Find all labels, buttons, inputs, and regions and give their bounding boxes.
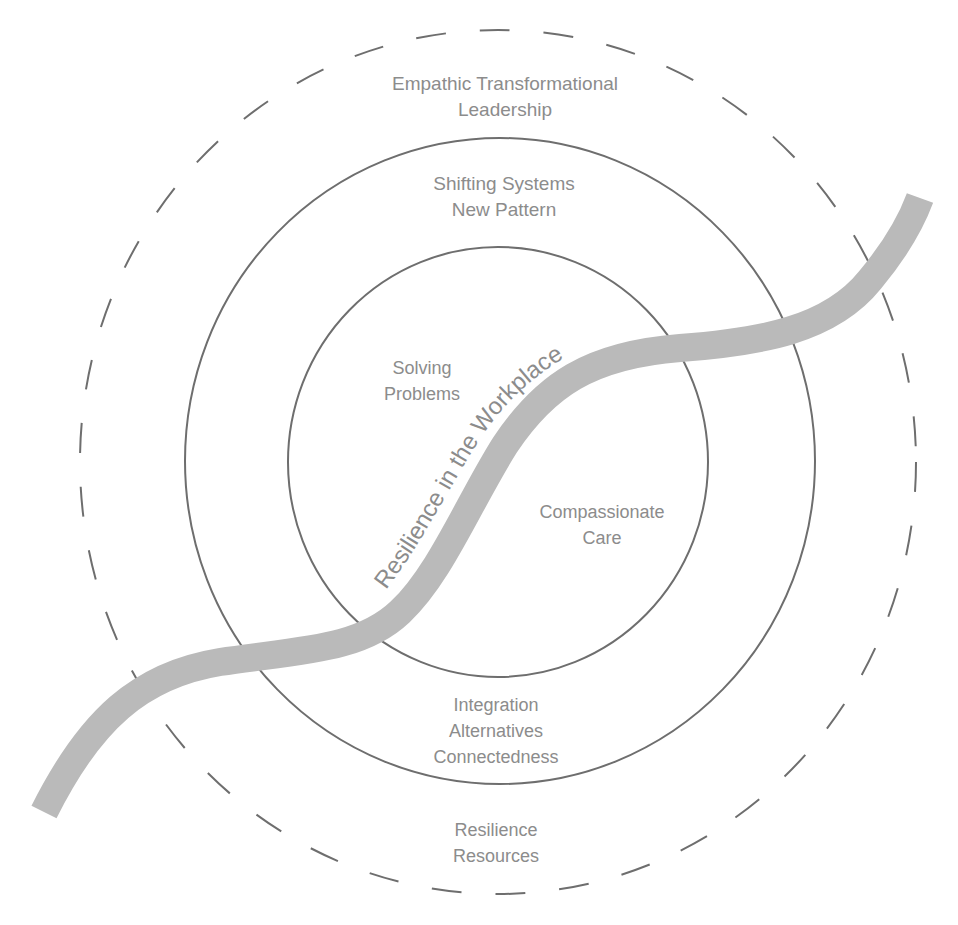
label-connectedness: Connectedness: [433, 747, 558, 767]
label-care: Care: [582, 528, 621, 548]
label-alternatives: Alternatives: [449, 721, 543, 741]
label-resources: Resources: [453, 846, 539, 866]
label-compassionate: Compassionate: [539, 502, 664, 522]
resilience-ribbon: [44, 198, 920, 812]
label-solving: Solving: [392, 358, 451, 378]
label-resilience: Resilience: [454, 820, 537, 840]
label-problems: Problems: [384, 384, 460, 404]
label-integration: Integration: [453, 695, 538, 715]
label-empathic-transformational: Empathic Transformational: [392, 73, 618, 94]
label-leadership: Leadership: [458, 99, 552, 120]
resilience-diagram: Resilience in the Workplace Empathic Tra…: [0, 0, 958, 925]
label-shifting-systems: Shifting Systems: [433, 173, 575, 194]
label-new-pattern: New Pattern: [452, 199, 557, 220]
